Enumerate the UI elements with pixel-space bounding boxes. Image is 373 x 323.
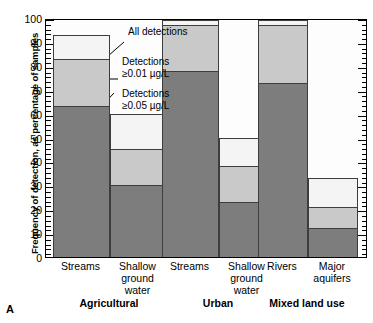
axis-tick-mark — [358, 163, 366, 164]
bar-2 — [110, 19, 167, 257]
axis-tick-mark — [362, 53, 367, 54]
axis-tick-mark — [362, 216, 367, 217]
axis-tick-mark — [362, 96, 367, 97]
axis-tick-mark — [46, 87, 51, 88]
axis-tick-mark — [46, 216, 51, 217]
axis-tick-mark — [46, 101, 51, 102]
x-category-label-line: water — [212, 284, 281, 296]
legend-label-line: All detections — [128, 26, 187, 38]
y-tick-label: 20 — [30, 204, 42, 216]
axis-tick-mark — [362, 245, 367, 246]
axis-tick-mark — [46, 111, 51, 112]
axis-tick-mark — [46, 240, 51, 241]
axis-tick-mark — [46, 168, 51, 169]
axis-tick-mark — [362, 240, 367, 241]
bar-6 — [308, 19, 358, 257]
x-category-label-line: water — [103, 284, 172, 296]
axis-tick-mark — [46, 130, 51, 131]
axis-tick-mark — [46, 144, 51, 145]
figure-panel-a: Frequency of detection, as percentage of… — [0, 0, 373, 323]
axis-tick-mark — [362, 120, 367, 121]
axis-tick-mark — [362, 87, 367, 88]
axis-tick-mark — [358, 116, 366, 117]
y-axis-tick-labels: 0102030405060708090100 — [18, 0, 42, 323]
axis-tick-mark — [362, 149, 367, 150]
y-tick-label: 50 — [30, 133, 42, 145]
axis-tick-mark — [362, 221, 367, 222]
axis-tick-mark — [46, 58, 51, 59]
axis-tick-mark — [46, 159, 51, 160]
axis-tick-mark — [362, 125, 367, 126]
axis-tick-mark — [46, 77, 51, 78]
axis-tick-mark — [46, 154, 51, 155]
axis-tick-mark — [46, 254, 51, 255]
axis-tick-mark — [46, 34, 51, 35]
legend-label-line: ≥0.01 µg/L — [122, 68, 169, 80]
bar-segment-all-detections — [308, 178, 358, 207]
axis-tick-mark — [362, 106, 367, 107]
axis-tick-mark — [362, 249, 367, 250]
axis-tick-mark — [46, 125, 51, 126]
bar-segment-all-detections — [53, 35, 110, 59]
y-tick-label: 0 — [36, 252, 42, 264]
bar-segment-detections-005 — [110, 185, 167, 257]
x-group-label-3: Mixed land use — [243, 297, 371, 309]
axis-tick-mark — [46, 197, 51, 198]
axis-tick-mark — [362, 63, 367, 64]
x-category-label-line: Major — [301, 260, 363, 272]
bar-segment-detections-005 — [53, 106, 110, 257]
legend-label-all: All detections — [128, 26, 187, 38]
bar-segment-all-detections — [110, 114, 167, 150]
axis-tick-mark — [362, 173, 367, 174]
axis-tick-mark — [46, 249, 51, 250]
axis-tick-mark — [46, 221, 51, 222]
axis-tick-mark — [46, 120, 51, 121]
plot-area: All detectionsDetections≥0.01 µg/LDetect… — [45, 19, 367, 258]
axis-tick-mark — [362, 101, 367, 102]
axis-tick-mark — [46, 230, 51, 231]
bar-segment-detections-001 — [53, 59, 110, 107]
axis-tick-mark — [362, 230, 367, 231]
axis-tick-mark — [358, 140, 366, 141]
legend-label-d001: Detections≥0.01 µg/L — [122, 56, 169, 79]
axis-tick-mark — [46, 63, 51, 64]
axis-tick-mark — [362, 49, 367, 50]
bar-segment-detections-001 — [258, 25, 308, 82]
y-tick-label: 40 — [30, 156, 42, 168]
axis-tick-mark — [362, 154, 367, 155]
axis-tick-mark — [362, 168, 367, 169]
axis-tick-mark — [362, 58, 367, 59]
axis-tick-mark — [46, 39, 51, 40]
axis-tick-mark — [362, 144, 367, 145]
panel-letter: A — [6, 303, 14, 315]
axis-tick-mark — [362, 34, 367, 35]
x-axis-category-labels: StreamsShallowgroundwaterStreamsShallowg… — [45, 260, 367, 302]
axis-tick-mark — [46, 25, 51, 26]
axis-tick-mark — [46, 206, 51, 207]
axis-tick-mark — [362, 254, 367, 255]
axis-tick-mark — [46, 106, 51, 107]
y-tick-label: 10 — [30, 228, 42, 240]
axis-tick-mark — [46, 192, 51, 193]
legend-label-line: ≥0.05 µg/L — [122, 100, 169, 112]
y-tick-label: 80 — [30, 61, 42, 73]
y-tick-label: 60 — [30, 109, 42, 121]
y-tick-label: 70 — [30, 85, 42, 97]
axis-tick-mark — [362, 197, 367, 198]
axis-tick-mark — [362, 226, 367, 227]
axis-tick-mark — [46, 245, 51, 246]
bar-segment-detections-001 — [308, 207, 358, 229]
axis-tick-mark — [46, 183, 51, 184]
bar-segment-detections-005 — [258, 83, 308, 257]
bar-segment-detections-001 — [110, 149, 167, 185]
axis-tick-mark — [46, 30, 51, 31]
x-axis-group-labels: AgriculturalUrbanMixed land use — [45, 297, 367, 313]
y-tick-label: 100 — [24, 13, 42, 25]
axis-tick-mark — [362, 135, 367, 136]
x-category-label-line: ground — [103, 272, 172, 284]
legend-label-line: Detections — [122, 56, 169, 68]
bar-1 — [53, 19, 110, 257]
legend-label-d005: Detections≥0.05 µg/L — [122, 88, 169, 111]
axis-tick-mark — [362, 111, 367, 112]
y-tick-label: 30 — [30, 180, 42, 192]
